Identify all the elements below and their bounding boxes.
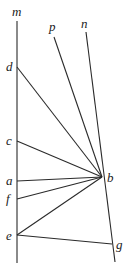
label-n: n xyxy=(81,16,88,31)
segment-eb xyxy=(17,177,102,235)
label-p: p xyxy=(48,19,56,34)
line-n xyxy=(86,32,115,262)
label-f: f xyxy=(6,191,12,206)
segment-db xyxy=(17,67,102,177)
label-d: d xyxy=(6,59,13,74)
label-c: c xyxy=(6,133,12,148)
label-e: e xyxy=(6,228,12,243)
label-m: m xyxy=(12,4,21,19)
label-b: b xyxy=(107,170,114,185)
line-p xyxy=(54,37,102,177)
segment-cb xyxy=(17,141,102,177)
geometry-diagram: m p n d c a f e b g xyxy=(0,0,129,278)
label-a: a xyxy=(6,173,13,188)
label-g: g xyxy=(116,237,123,252)
segment-eg xyxy=(17,235,112,244)
